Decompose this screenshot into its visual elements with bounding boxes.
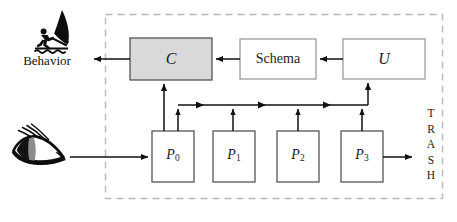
diagram-canvas: Behavior C Schema U P0 P1 P2 P3 T R A S … — [0, 0, 457, 222]
trash-letter-s: S — [420, 153, 442, 169]
behavior-label: Behavior — [6, 53, 88, 69]
node-box-p3[interactable] — [341, 131, 383, 182]
node-box-p1[interactable] — [213, 131, 255, 182]
node-box-schema[interactable] — [240, 39, 316, 79]
eye-icon — [12, 124, 66, 165]
trash-letter-h: H — [420, 168, 442, 184]
trash-label: T R A S H — [420, 106, 442, 184]
trash-letter-r: R — [420, 122, 442, 138]
trash-letter-t: T — [420, 106, 442, 122]
trash-letter-a: A — [420, 137, 442, 153]
node-box-c[interactable] — [130, 38, 212, 80]
node-box-p0[interactable] — [152, 131, 194, 182]
node-box-p2[interactable] — [277, 131, 319, 182]
diagram-svg — [0, 0, 457, 222]
windsurfer-icon — [35, 10, 69, 53]
node-box-u[interactable] — [343, 39, 425, 79]
